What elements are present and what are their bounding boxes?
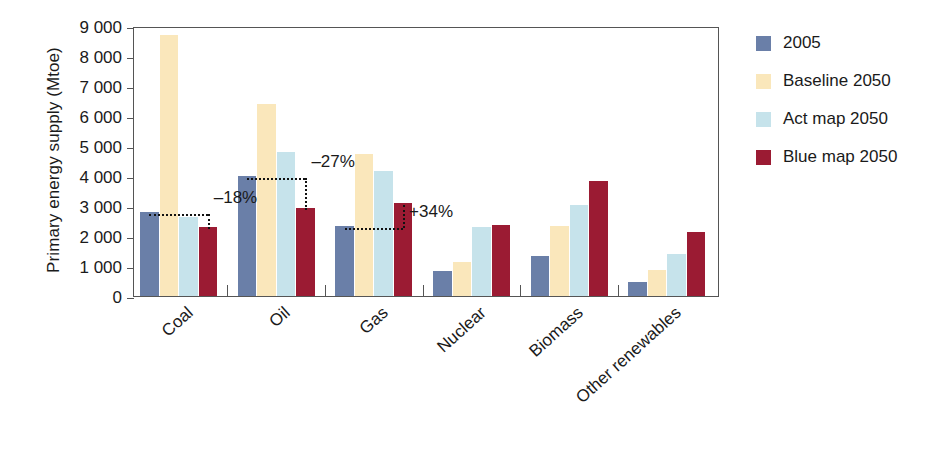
bar-group <box>433 28 510 296</box>
legend-item[interactable]: 2005 <box>756 24 897 62</box>
bar[interactable] <box>160 35 179 296</box>
annotation-line-horizontal <box>149 214 208 216</box>
y-axis-tick <box>127 148 134 149</box>
y-axis-tick <box>127 268 134 269</box>
bar[interactable] <box>570 205 589 296</box>
legend-item-label: Baseline 2050 <box>783 71 891 91</box>
y-axis-title: Primary energy supply (Mtoe) <box>44 10 64 310</box>
bar[interactable] <box>628 282 647 296</box>
bar[interactable] <box>550 226 569 296</box>
y-axis-tick <box>127 178 134 179</box>
bar-group <box>628 28 705 296</box>
y-axis-tick-label: 8 000 <box>79 48 122 68</box>
annotation-line-horizontal <box>247 178 306 180</box>
chart-legend: 2005Baseline 2050Act map 2050Blue map 20… <box>756 24 897 176</box>
bar[interactable] <box>355 154 374 297</box>
bar[interactable] <box>296 208 315 297</box>
bar[interactable] <box>374 171 393 296</box>
bar-group-bars <box>628 28 705 296</box>
legend-swatch-icon <box>756 36 771 51</box>
legend-swatch-icon <box>756 150 771 165</box>
legend-item[interactable]: Act map 2050 <box>756 100 897 138</box>
legend-item[interactable]: Baseline 2050 <box>756 62 897 100</box>
bar-group <box>140 28 217 296</box>
bar-group-bars <box>140 28 217 296</box>
y-axis-tick-label: 1 000 <box>79 258 122 278</box>
legend-item[interactable]: Blue map 2050 <box>756 138 897 176</box>
bar-chart: Primary energy supply (Mtoe) 9 0008 0007… <box>0 0 948 450</box>
y-axis-tick-label: 5 000 <box>79 138 122 158</box>
y-axis-tick <box>127 208 134 209</box>
legend-item-label: Blue map 2050 <box>783 147 897 167</box>
bar[interactable] <box>257 104 276 296</box>
plot-frame: 9 0008 0007 0006 0005 0004 0003 0002 000… <box>133 27 719 297</box>
bar[interactable] <box>648 270 667 296</box>
legend-item-label: Act map 2050 <box>783 109 888 129</box>
bar[interactable] <box>335 226 354 296</box>
bar[interactable] <box>140 212 159 296</box>
bar[interactable] <box>453 262 472 297</box>
y-axis-tick <box>127 58 134 59</box>
bar[interactable] <box>433 271 452 297</box>
y-axis-tick-label: 3 000 <box>79 198 122 218</box>
bar-group <box>531 28 608 296</box>
annotation-line-vertical <box>403 205 405 228</box>
y-axis-tick-label: 7 000 <box>79 78 122 98</box>
bar-group-bars <box>531 28 608 296</box>
legend-swatch-icon <box>756 74 771 89</box>
y-axis-tick <box>127 88 134 89</box>
annotation-line-vertical <box>305 178 307 210</box>
y-axis-tick-label: 2 000 <box>79 228 122 248</box>
plot-area <box>134 28 718 296</box>
y-axis-tick <box>127 118 134 119</box>
x-axis-group-separator <box>227 285 228 296</box>
bar[interactable] <box>179 217 198 297</box>
x-axis-group-separator <box>423 285 424 296</box>
annotation-label: –27% <box>311 152 354 172</box>
bar-group-bars <box>433 28 510 296</box>
annotation-label: –18% <box>214 188 257 208</box>
y-axis-tick-label: 4 000 <box>79 168 122 188</box>
annotation-label: +34% <box>409 202 453 222</box>
bar[interactable] <box>667 254 686 296</box>
annotation-line-vertical <box>208 214 210 229</box>
bar-group <box>238 28 315 296</box>
y-axis-tick <box>127 28 134 29</box>
bar[interactable] <box>531 256 550 297</box>
bar[interactable] <box>472 227 491 296</box>
annotation-line-horizontal <box>345 228 404 230</box>
legend-item-label: 2005 <box>783 33 821 53</box>
y-axis-tick <box>127 238 134 239</box>
legend-swatch-icon <box>756 112 771 127</box>
x-axis-group-separator <box>325 285 326 296</box>
bar-group-bars <box>238 28 315 296</box>
y-axis-tick-label: 6 000 <box>79 108 122 128</box>
y-axis-tick-label: 0 <box>113 288 122 308</box>
y-axis-tick <box>127 298 134 299</box>
y-axis-tick-label: 9 000 <box>79 18 122 38</box>
bar[interactable] <box>277 152 296 296</box>
